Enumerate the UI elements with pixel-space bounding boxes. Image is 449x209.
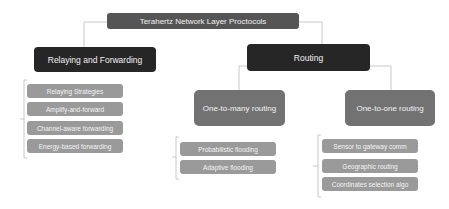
one-to-many-routing-label: One-to-many routing — [203, 104, 276, 113]
root-node: Terahertz Network Layer Proctocols — [107, 13, 299, 29]
leaf-relaying-strategies: Relaying Strategies — [27, 84, 123, 98]
routing-label: Routing — [294, 53, 323, 63]
leaf-label: Relaying Strategies — [47, 88, 103, 95]
leaf-adaptive-flooding: Adaptive flooding — [180, 160, 276, 174]
one-to-many-routing-node: One-to-many routing — [194, 90, 285, 126]
one-to-one-routing-label: One-to-one routing — [356, 104, 423, 113]
leaf-sensor-to-gateway-comm: Sensor to gateway comm — [322, 139, 418, 153]
leaf-label: Coordinates selection algo — [332, 181, 409, 188]
leaf-geographic-routing: Geographic routing — [322, 159, 418, 173]
leaf-amplify-and-forward: Amplify-and-forward — [27, 102, 123, 116]
root-label: Terahertz Network Layer Proctocols — [140, 17, 267, 26]
leaf-label: Probabilistic flooding — [198, 146, 258, 153]
leaf-label: Channel-aware forwarding — [37, 125, 113, 132]
leaf-label: Adaptive flooding — [203, 164, 253, 171]
leaf-energy-based-forwarding: Energy-based forwarding — [27, 139, 123, 153]
leaf-label: Amplify-and-forward — [46, 106, 104, 113]
relaying-forwarding-node: Relaying and Forwarding — [34, 47, 156, 72]
leaf-coordinates-selection-algo: Coordinates selection algo — [322, 177, 418, 191]
leaf-channel-aware-forwarding: Channel-aware forwarding — [27, 121, 123, 135]
leaf-label: Sensor to gateway comm — [333, 143, 406, 150]
leaf-label: Energy-based forwarding — [39, 143, 112, 150]
leaf-probabilistic-flooding: Probabilistic flooding — [180, 142, 276, 156]
leaf-label: Geographic routing — [342, 163, 397, 170]
routing-node: Routing — [247, 44, 370, 71]
relaying-forwarding-label: Relaying and Forwarding — [48, 55, 143, 65]
one-to-one-routing-node: One-to-one routing — [345, 90, 435, 126]
